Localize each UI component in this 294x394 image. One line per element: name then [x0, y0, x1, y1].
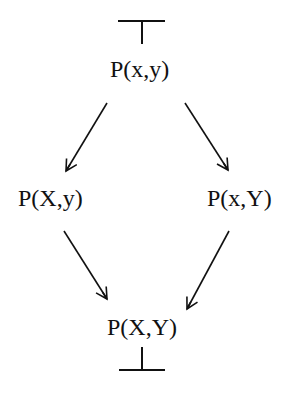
node-bottom: P(X,Y) [107, 315, 177, 339]
edge-right-to-bottom [187, 231, 229, 309]
node-top: P(x,y) [110, 57, 169, 81]
node-left: P(X,y) [18, 186, 83, 210]
node-right: P(x,Y) [207, 186, 272, 210]
top-element-icon [118, 21, 165, 44]
edge-left-to-bottom [64, 231, 107, 299]
bottom-element-icon [119, 347, 165, 370]
edge-top-to-left [66, 103, 107, 171]
edge-top-to-right [185, 103, 228, 170]
